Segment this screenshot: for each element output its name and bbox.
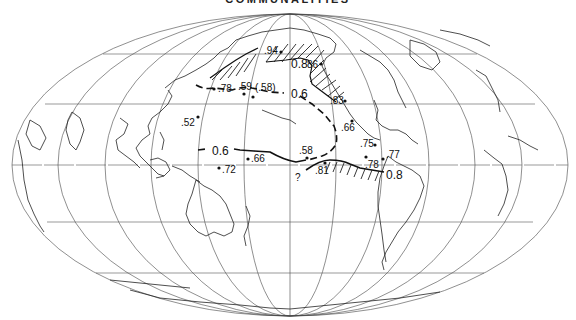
- point-label: .58: [299, 145, 313, 156]
- point-label: .59: [238, 81, 252, 92]
- point-label: .83: [330, 95, 344, 106]
- data-point: [242, 92, 245, 95]
- contour-label-0.6-west: 0.6: [212, 144, 229, 158]
- point-label: .81: [315, 165, 329, 176]
- contour-label-0.8-south: 0.8: [386, 168, 403, 182]
- point-label: .94: [264, 45, 278, 56]
- data-point: [196, 115, 199, 118]
- data-point: [251, 95, 254, 98]
- data-point: [217, 166, 220, 169]
- point-label: .75: [360, 138, 374, 149]
- point-label: .66: [251, 153, 265, 164]
- data-point: [305, 156, 308, 159]
- point-label: (.58): [255, 82, 276, 93]
- world-map: 0.6 0.6 0.8 0.8 .94 86 .78 .59 (.58) .52…: [0, 0, 576, 320]
- point-label: .52: [181, 117, 195, 128]
- contour-label-0.6-north: 0.6: [291, 87, 308, 101]
- data-point: [246, 157, 249, 160]
- point-label: .77: [386, 149, 400, 160]
- data-point: [381, 157, 384, 160]
- coastlines: [18, 28, 538, 309]
- point-label: .78: [218, 83, 232, 94]
- uncertain-marker: ?: [295, 172, 301, 183]
- contour-label-0.8-north: 0.8: [291, 57, 308, 71]
- data-point: [319, 62, 322, 65]
- data-point: [212, 87, 215, 90]
- data-point: [279, 50, 282, 53]
- point-label: .78: [365, 159, 379, 170]
- point-label: .66: [341, 122, 355, 133]
- point-label: .72: [222, 164, 236, 175]
- point-label: 86: [307, 59, 319, 70]
